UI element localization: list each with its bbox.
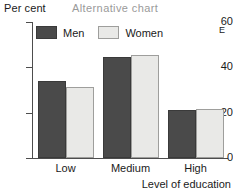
bar-chart: Per cent Alternative chart E 0204060 Low… bbox=[0, 0, 233, 192]
chart-title: Alternative chart bbox=[72, 2, 158, 15]
legend-entry-men: Men bbox=[36, 26, 84, 39]
y-axis-tick bbox=[26, 113, 32, 114]
bar-low-women bbox=[66, 87, 94, 158]
legend: Men Women bbox=[36, 26, 163, 39]
bar-medium-men bbox=[103, 57, 131, 158]
y-axis-title: Per cent bbox=[4, 2, 46, 15]
y-axis-tick bbox=[26, 67, 32, 68]
y-axis-tick bbox=[26, 158, 32, 159]
x-axis-label-low: Low bbox=[33, 162, 98, 175]
x-axis-line bbox=[32, 158, 228, 159]
bars-layer bbox=[33, 22, 228, 158]
bar-high-men bbox=[168, 110, 196, 158]
bar-high-women bbox=[196, 109, 224, 158]
legend-swatch-men-icon bbox=[36, 26, 57, 39]
bar-medium-women bbox=[131, 55, 159, 158]
y-axis-tick bbox=[26, 22, 32, 23]
legend-label-men: Men bbox=[63, 27, 84, 39]
x-axis-label-high: High bbox=[163, 162, 228, 175]
x-axis-title: Level of education bbox=[142, 178, 231, 191]
bar-low-men bbox=[38, 81, 66, 158]
x-axis-label-medium: Medium bbox=[98, 162, 163, 175]
legend-entry-women: Women bbox=[98, 26, 163, 39]
legend-swatch-women-icon bbox=[98, 26, 119, 39]
legend-label-women: Women bbox=[125, 27, 163, 39]
